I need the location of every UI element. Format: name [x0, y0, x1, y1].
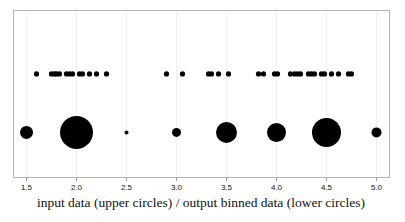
- upper-data-point: [275, 71, 280, 76]
- upper-data-point: [70, 71, 75, 76]
- lower-binned-point: [20, 126, 33, 139]
- x-axis-tick-label: 2.0: [71, 183, 83, 192]
- x-axis-tick-labels: 1.52.02.53.03.54.04.55.0: [21, 183, 383, 192]
- upper-data-point: [104, 71, 109, 76]
- upper-data-point: [164, 71, 169, 76]
- upper-data-point: [312, 71, 317, 76]
- upper-data-point: [226, 71, 231, 76]
- upper-data-point: [329, 71, 334, 76]
- lower-binned-point: [125, 130, 129, 134]
- lower-binned-point: [267, 123, 286, 142]
- upper-data-point: [34, 71, 39, 76]
- x-axis-tick-label: 3.0: [171, 183, 183, 192]
- plot-frame: [14, 11, 390, 178]
- lower-binned-point: [60, 116, 93, 149]
- upper-data-point: [298, 71, 303, 76]
- upper-data-point: [209, 71, 214, 76]
- upper-data-point: [87, 71, 92, 76]
- upper-data-point: [256, 71, 261, 76]
- upper-data-point: [94, 71, 99, 76]
- x-axis-tick-label: 5.0: [371, 183, 383, 192]
- lower-binned-point: [172, 128, 181, 137]
- x-axis-tick-label: 2.5: [121, 183, 133, 192]
- x-axis-tick-label: 4.5: [321, 183, 333, 192]
- upper-data-point: [80, 71, 85, 76]
- x-axis-tick-label: 1.5: [21, 183, 33, 192]
- scatter-chart: 1.52.02.53.03.54.04.55.0 input data (upp…: [0, 0, 405, 222]
- lower-binned-point: [372, 127, 382, 137]
- upper-data-point: [349, 71, 354, 76]
- upper-data-point: [261, 71, 266, 76]
- lower-binned-point: [216, 122, 237, 143]
- upper-data-point: [57, 71, 62, 76]
- x-axis-tick-label: 3.5: [221, 183, 233, 192]
- x-axis-title: input data (upper circles) / output binn…: [37, 195, 365, 210]
- x-axis-tick-label: 4.0: [271, 183, 283, 192]
- tickmarks: [27, 178, 377, 182]
- upper-data-point: [336, 71, 341, 76]
- upper-data-point: [322, 71, 327, 76]
- upper-data-point: [180, 71, 185, 76]
- lower-binned-point: [312, 118, 341, 147]
- upper-data-point: [216, 71, 221, 76]
